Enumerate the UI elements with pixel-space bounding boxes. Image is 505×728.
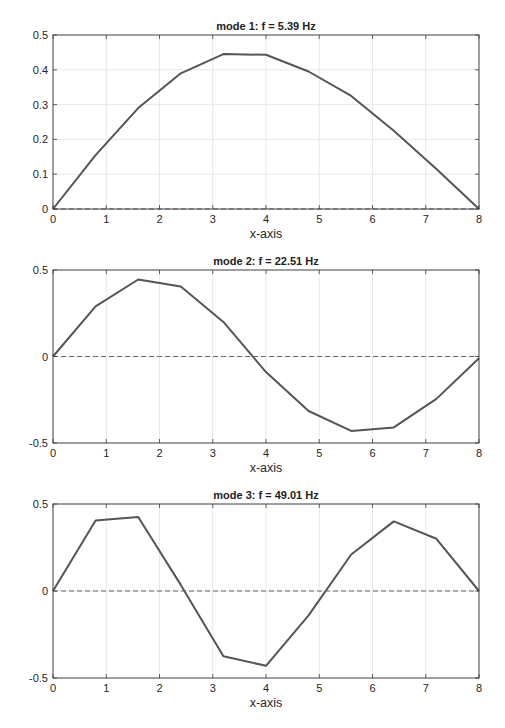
y-tick-label: 0.5 [33,29,48,41]
y-tick-labels: 00.10.20.30.40.5 [33,29,48,215]
x-tick-label: 4 [263,447,269,459]
x-tick-label: 2 [156,682,162,694]
x-tick-label: 8 [476,447,482,459]
x-tick-label: 2 [156,213,162,225]
x-tick-label: 0 [50,682,56,694]
subplot-1: 01234567800.10.20.30.40.5mode 1: f = 5.3… [33,20,482,241]
x-tick-label: 3 [210,682,216,694]
x-tick-label: 0 [50,447,56,459]
x-tick-label: 4 [263,213,269,225]
x-tick-label: 1 [103,682,109,694]
x-tick-label: 6 [369,447,375,459]
x-axis-label: x-axis [250,696,283,710]
x-tick-labels: 012345678 [50,447,482,459]
x-tick-label: 7 [423,213,429,225]
x-tick-label: 8 [476,213,482,225]
y-tick-label: 0.1 [33,168,48,180]
x-tick-label: 1 [103,447,109,459]
y-tick-label: 0.4 [33,64,48,76]
x-tick-label: 7 [423,447,429,459]
x-tick-label: 1 [103,213,109,225]
x-tick-label: 5 [316,447,322,459]
y-tick-label: 0 [42,585,48,597]
x-tick-label: 6 [369,682,375,694]
y-tick-label: 0.5 [33,264,48,276]
x-tick-label: 6 [369,213,375,225]
x-tick-label: 7 [423,682,429,694]
subplot-2: 012345678-0.500.5mode 2: f = 22.51 Hzx-a… [29,255,482,475]
figure: 01234567800.10.20.30.40.5mode 1: f = 5.3… [0,0,505,728]
x-tick-label: 4 [263,682,269,694]
y-tick-label: 0.3 [33,99,48,111]
subplot-title: mode 3: f = 49.01 Hz [213,489,319,501]
x-tick-label: 0 [50,213,56,225]
subplot-3: 012345678-0.500.5mode 3: f = 49.01 Hzx-a… [29,489,482,710]
subplot-title: mode 2: f = 22.51 Hz [213,255,319,267]
x-tick-labels: 012345678 [50,213,482,225]
y-tick-label: 0 [42,351,48,363]
x-tick-label: 2 [156,447,162,459]
x-tick-label: 3 [210,447,216,459]
y-tick-label: 0.5 [33,498,48,510]
subplot-title: mode 1: f = 5.39 Hz [216,20,316,32]
y-tick-label: -0.5 [29,672,48,684]
y-tick-labels: -0.500.5 [29,264,48,449]
x-tick-label: 8 [476,682,482,694]
x-axis-label: x-axis [250,227,283,241]
y-tick-label: 0.2 [33,133,48,145]
x-tick-labels: 012345678 [50,682,482,694]
y-tick-labels: -0.500.5 [29,498,48,684]
x-tick-label: 5 [316,213,322,225]
y-tick-label: 0 [42,203,48,215]
x-axis-label: x-axis [250,461,283,475]
x-tick-label: 5 [316,682,322,694]
x-tick-label: 3 [210,213,216,225]
y-tick-label: -0.5 [29,437,48,449]
